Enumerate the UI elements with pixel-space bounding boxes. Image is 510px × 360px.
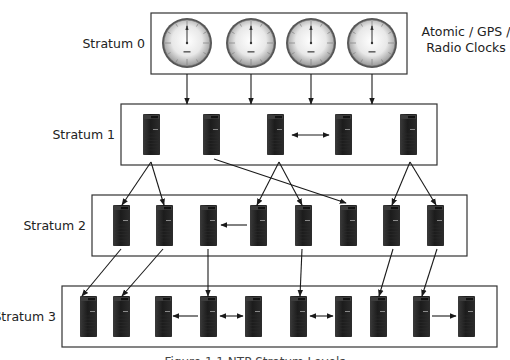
server-icon: [295, 205, 312, 246]
clock-icon: [162, 18, 212, 68]
server-icon: [203, 114, 220, 155]
server-icon: [143, 114, 160, 155]
server-icon: [200, 205, 217, 246]
server-icon: [427, 205, 444, 246]
server-icon: [156, 205, 173, 246]
server-icon: [155, 296, 172, 337]
server-icon: [245, 296, 262, 337]
server-icon: [113, 296, 130, 337]
stratum-2-box: [92, 195, 467, 256]
clock-icon: [347, 18, 397, 68]
clock-icon: [226, 18, 276, 68]
server-icon: [400, 114, 417, 155]
server-icon: [267, 114, 284, 155]
stratum-0-tier: Stratum 0: [82, 13, 407, 74]
tiers-layer: Stratum 0Stratum 1Stratum 2Stratum 3: [0, 13, 497, 347]
clock-source-label: Atomic / GPS / Radio Clocks: [422, 24, 510, 55]
clock-icon: [286, 18, 336, 68]
stratum-3-label: Stratum 3: [0, 309, 56, 324]
server-icon: [113, 205, 130, 246]
server-icon: [200, 296, 217, 337]
server-icon: [290, 296, 307, 337]
server-icon: [335, 114, 352, 155]
figure-caption: Figure 1.1 NTP Stratum Levels: [164, 355, 345, 360]
server-icon: [370, 296, 387, 337]
server-icon: [335, 296, 352, 337]
server-icon: [340, 205, 357, 246]
stratum-1-tier: Stratum 1: [52, 104, 437, 165]
ntp-stratum-diagram: Stratum 0Stratum 1Stratum 2Stratum 3 Ato…: [0, 0, 510, 360]
server-icon: [458, 296, 475, 337]
server-icon: [383, 205, 400, 246]
stratum-2-label: Stratum 2: [23, 218, 86, 233]
clock-source-label-line-1: Atomic / GPS /: [422, 24, 510, 39]
stratum-0-label: Stratum 0: [82, 36, 145, 51]
stratum-1-label: Stratum 1: [52, 127, 115, 142]
server-icon: [80, 296, 97, 337]
server-icon: [413, 296, 430, 337]
clock-source-label-line-2: Radio Clocks: [426, 40, 506, 55]
server-icon: [250, 205, 267, 246]
